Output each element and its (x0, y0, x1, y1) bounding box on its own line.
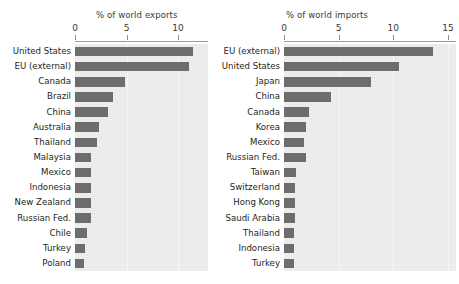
x-tick-label: 5 (336, 23, 342, 34)
bar-row (284, 47, 456, 57)
category-label: Canada (247, 108, 280, 117)
category-label: Korea (256, 123, 280, 132)
bar-row (75, 153, 208, 163)
bar-row (75, 92, 208, 102)
bar (284, 77, 371, 87)
x-tick-label: 0 (281, 23, 287, 34)
bar-row (284, 153, 456, 163)
bar (75, 228, 87, 238)
bar-row (284, 122, 456, 132)
bar (284, 244, 294, 254)
bar-row (284, 92, 456, 102)
bar (75, 92, 113, 102)
exports-category-labels: United StatesEU (external)CanadaBrazilCh… (0, 44, 71, 271)
bar (284, 122, 306, 132)
category-label: Brazil (47, 92, 71, 101)
x-tick-mark (75, 35, 76, 40)
bar-row (284, 138, 456, 148)
category-label: Taiwan (251, 168, 280, 177)
bar (284, 259, 294, 269)
bar (75, 107, 108, 117)
category-label: Russian Fed. (17, 214, 71, 223)
bar-row (75, 244, 208, 254)
category-label: Hong Kong (233, 198, 280, 207)
category-label: Australia (33, 123, 71, 132)
bar-row (284, 183, 456, 193)
bar (284, 168, 296, 178)
imports-chart-panel: % of world imports 051015 EU (external)U… (215, 0, 459, 284)
category-label: Thailand (34, 138, 71, 147)
category-label: Indonesia (29, 183, 71, 192)
bar (284, 47, 433, 57)
imports-plot-area (284, 44, 456, 271)
category-label: United States (222, 62, 280, 71)
x-tick-mark (284, 35, 285, 40)
category-label: United States (13, 47, 71, 56)
x-tick-label: 10 (388, 23, 399, 34)
bar-row (284, 213, 456, 223)
bar-row (75, 107, 208, 117)
exports-axis-line (75, 41, 208, 42)
bar-row (75, 213, 208, 223)
bar (75, 62, 189, 72)
bar (75, 138, 97, 148)
x-tick-mark (127, 35, 128, 40)
bar (75, 77, 125, 87)
category-label: Poland (42, 259, 71, 268)
x-tick-label: 15 (442, 23, 453, 34)
bar-row (284, 168, 456, 178)
bar (284, 62, 399, 72)
imports-axis-line (284, 41, 456, 42)
bar (75, 168, 91, 178)
bar (75, 213, 91, 223)
category-label: Mexico (250, 138, 280, 147)
category-label: Turkey (43, 244, 71, 253)
bar (284, 183, 295, 193)
category-label: Switzerland (230, 183, 280, 192)
bar (75, 244, 85, 254)
category-label: Japan (256, 77, 280, 86)
x-tick-label: 0 (72, 23, 78, 34)
bar-row (75, 138, 208, 148)
category-label: Mexico (41, 168, 71, 177)
bar (284, 213, 295, 223)
x-tick-label: 5 (124, 23, 130, 34)
imports-axis-title: % of world imports (286, 10, 368, 20)
bar-row (75, 62, 208, 72)
category-label: Chile (49, 229, 71, 238)
bar-row (75, 259, 208, 269)
bar (284, 228, 294, 238)
x-tick-mark (178, 35, 179, 40)
category-label: Turkey (252, 259, 280, 268)
bar-row (75, 47, 208, 57)
bar (284, 92, 331, 102)
imports-category-labels: EU (external)United StatesJapanChinaCana… (215, 44, 280, 271)
category-label: Russian Fed. (226, 153, 280, 162)
bar-row (284, 107, 456, 117)
category-label: China (46, 108, 71, 117)
bar-row (284, 244, 456, 254)
bar-row (75, 183, 208, 193)
bar-row (75, 198, 208, 208)
bar (75, 183, 91, 193)
category-label: EU (external) (14, 62, 71, 71)
bar (75, 259, 84, 269)
bar-row (75, 122, 208, 132)
x-tick-mark (448, 35, 449, 40)
bar (284, 138, 304, 148)
category-label: Indonesia (238, 244, 280, 253)
bar-row (284, 228, 456, 238)
bar-row (284, 198, 456, 208)
bar-row (75, 168, 208, 178)
bar-row (75, 77, 208, 87)
x-tick-mark (339, 35, 340, 40)
bar (284, 153, 306, 163)
bar-row (284, 62, 456, 72)
exports-chart-panel: % of world exports 0510 United StatesEU … (0, 0, 220, 284)
bar (75, 153, 91, 163)
bar (75, 198, 91, 208)
category-label: Canada (38, 77, 71, 86)
bar (284, 107, 309, 117)
bar-row (284, 259, 456, 269)
bar-row (75, 228, 208, 238)
